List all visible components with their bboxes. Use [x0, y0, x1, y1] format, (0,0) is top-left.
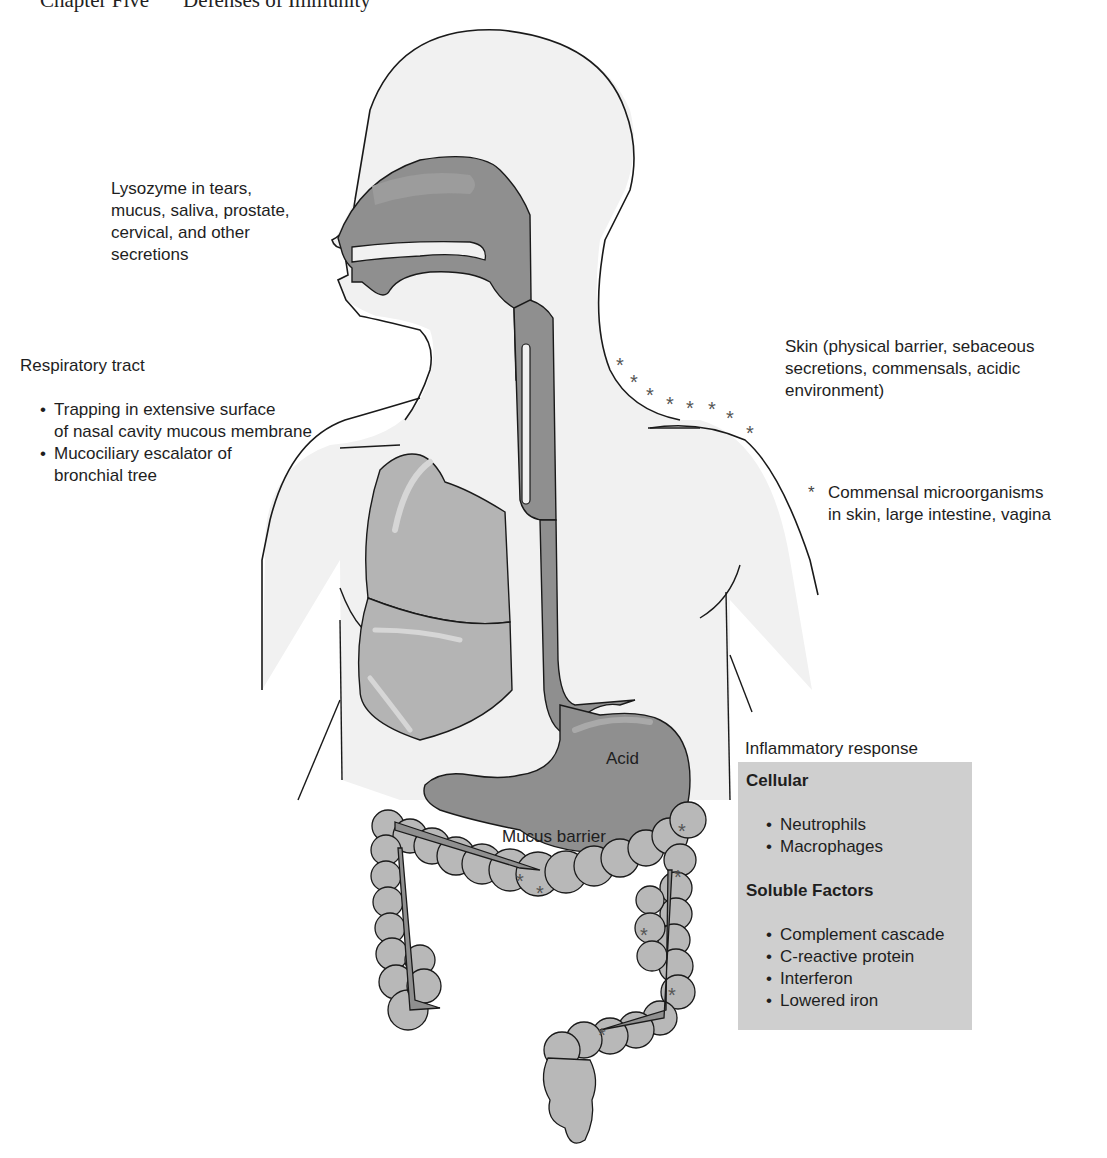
- svg-text:*: *: [668, 984, 676, 1006]
- commensal-legend: *Commensal microorganisms in skin, large…: [808, 482, 1051, 526]
- soluble-factors-list: Complement cascade C-reactive protein In…: [764, 924, 972, 1012]
- cellular-list: Neutrophils Macrophages: [764, 814, 972, 858]
- commensal-line-1: Commensal microorganisms: [828, 483, 1043, 502]
- skin-label: Skin (physical barrier, sebaceous secret…: [785, 336, 1034, 402]
- svg-text:*: *: [746, 422, 754, 444]
- svg-text:*: *: [708, 398, 716, 420]
- svg-text:*: *: [726, 407, 734, 429]
- respiratory-item-2-line-1: Mucociliary escalator of: [54, 444, 232, 463]
- inflammatory-response-title: Inflammatory response: [745, 738, 918, 760]
- respiratory-item-1-line-1: Trapping in extensive surface: [54, 400, 275, 419]
- respiratory-item-2-line-2: bronchial tree: [54, 465, 312, 487]
- asterisk-icon: *: [808, 482, 828, 504]
- cellular-item: Macrophages: [764, 836, 972, 858]
- soluble-item: Complement cascade: [764, 924, 972, 946]
- svg-text:*: *: [598, 1024, 606, 1046]
- respiratory-title: Respiratory tract: [20, 355, 312, 377]
- svg-text:*: *: [666, 393, 674, 415]
- commensal-line-2: in skin, large intestine, vagina: [808, 504, 1051, 526]
- inflammatory-response-box: Cellular Neutrophils Macrophages Soluble…: [738, 762, 972, 1030]
- svg-text:*: *: [630, 371, 638, 393]
- svg-text:*: *: [616, 354, 624, 376]
- skin-line-2: secretions, commensals, acidic: [785, 358, 1034, 380]
- lysozyme-label: Lysozyme in tears, mucus, saliva, prosta…: [111, 178, 290, 266]
- soluble-factors-heading: Soluble Factors: [746, 880, 972, 902]
- cellular-item: Neutrophils: [764, 814, 972, 836]
- respiratory-list: Trapping in extensive surface of nasal c…: [38, 399, 312, 487]
- large-intestine: [371, 802, 706, 1143]
- respiratory-tract-label: Respiratory tract Trapping in extensive …: [20, 355, 312, 487]
- svg-text:*: *: [536, 882, 544, 904]
- lysozyme-line-1: Lysozyme in tears,: [111, 178, 290, 200]
- soluble-item: Interferon: [764, 968, 972, 990]
- svg-text:*: *: [640, 924, 648, 946]
- acid-label: Acid: [606, 748, 639, 770]
- lysozyme-line-4: secretions: [111, 244, 290, 266]
- respiratory-item: Mucociliary escalator of bronchial tree: [38, 443, 312, 487]
- svg-text:*: *: [678, 820, 686, 842]
- svg-text:*: *: [686, 397, 694, 419]
- respiratory-item: Trapping in extensive surface of nasal c…: [38, 399, 312, 443]
- skin-line-1: Skin (physical barrier, sebaceous: [785, 336, 1034, 358]
- svg-text:*: *: [674, 866, 682, 888]
- soluble-item: C-reactive protein: [764, 946, 972, 968]
- mucus-barrier-label: Mucus barrier: [502, 826, 606, 848]
- cellular-heading: Cellular: [746, 770, 972, 792]
- svg-text:*: *: [646, 384, 654, 406]
- skin-line-3: environment): [785, 380, 1034, 402]
- soluble-item: Lowered iron: [764, 990, 972, 1012]
- respiratory-item-1-line-2: of nasal cavity mucous membrane: [54, 421, 312, 443]
- lysozyme-line-3: cervical, and other: [111, 222, 290, 244]
- svg-text:*: *: [516, 870, 524, 892]
- lysozyme-line-2: mucus, saliva, prostate,: [111, 200, 290, 222]
